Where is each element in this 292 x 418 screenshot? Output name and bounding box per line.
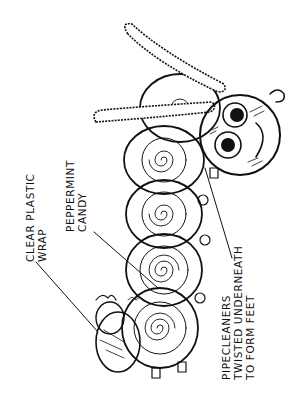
label-clear-plastic-wrap: CLEAR PLASTIC WRAP xyxy=(24,173,48,262)
eye-pupil-bottom xyxy=(221,138,235,152)
candy-segment-2 xyxy=(124,126,204,194)
label-line: TWISTED UNDERNEATH xyxy=(232,245,244,380)
label-line: WRAP xyxy=(36,173,48,262)
label-line: TO FORM FEET xyxy=(244,245,256,380)
tail xyxy=(96,295,140,372)
caterpillar-illustration: CLEAR PLASTIC WRAP PEPPERMINT CANDY PIPE… xyxy=(0,0,292,418)
label-line: CANDY xyxy=(76,160,88,232)
label-line: PEPPERMINT xyxy=(64,160,76,232)
antennae xyxy=(94,24,225,122)
candy-segment-3 xyxy=(126,180,202,248)
leader-line-peppermint xyxy=(94,232,158,288)
leader-line-plastic-wrap xyxy=(36,262,98,332)
label-peppermint-candy: PEPPERMINT CANDY xyxy=(64,160,88,232)
label-line: PIPECLEANERS xyxy=(220,245,232,380)
label-line: CLEAR PLASTIC xyxy=(24,173,36,262)
eye-pupil-top xyxy=(230,108,244,122)
smile xyxy=(256,123,263,157)
feet xyxy=(152,168,218,378)
label-pipecleaners: PIPECLEANERS TWISTED UNDERNEATH TO FORM … xyxy=(220,245,256,380)
